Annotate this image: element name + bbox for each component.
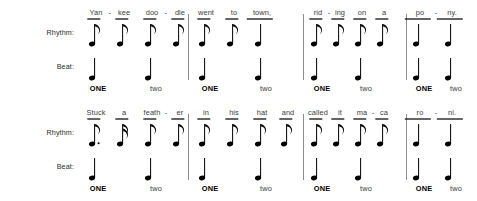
barline-1 [303,114,304,180]
lyric-syllable: Yan [90,8,103,17]
beat-note-quarter [139,152,165,186]
lyric-syllable: ma [357,108,367,117]
rhythm-note-quarter [439,118,465,152]
beat-label-one: ONE [202,184,219,193]
lyric-hyphen: - [372,108,374,117]
lyric-syllable: ca [380,108,388,117]
beat-label-one: ONE [314,184,331,193]
lyric-hyphen: - [109,8,111,17]
rhythm-note-eighth [111,18,137,52]
lyric-hyphen: - [328,8,330,17]
lyric-syllable: feath [144,108,161,117]
beat-note-quarter [439,52,465,86]
beat-label-one: ONE [416,184,433,193]
beat-note-quarter [83,52,109,86]
rhythm-note-quarter [407,118,433,152]
rhythm-note-eighth [371,118,397,152]
music-notation-sheet: Rhythm:Beat:Yan-keedoo-dleONEtwowenttoto… [0,0,477,201]
lyric-syllable: ny. [447,8,457,17]
lyric-syllable: called [308,108,328,117]
beat-label-one: ONE [416,84,433,93]
beat-label-two: two [450,184,462,193]
rhythm-note-eighth [139,118,165,152]
rhythm-note-eighth [167,118,193,152]
lyric-syllable: a [122,108,126,117]
system-1: Rhythm:Beat:Stuckafeath-erONEtwoinhishat… [0,100,477,200]
rhythm-note-quarter [249,18,275,52]
lyric-syllable: Stuck [87,108,106,117]
lyric-syllable: his [229,108,239,117]
beat-note-quarter [439,152,465,186]
rhythm-note-eighth [193,118,219,152]
lyric-hyphen: - [435,108,437,117]
lyric-syllable: ni. [448,108,456,117]
rhythm-note-quarter [439,18,465,52]
beat-row-label: Beat: [57,162,74,171]
lyric-syllable: to [231,8,237,17]
lyric-syllable: hat [257,108,268,117]
beat-label-one: ONE [90,184,107,193]
beat-note-quarter [139,52,165,86]
beat-note-quarter [193,152,219,186]
rhythm-note-eighth [221,18,247,52]
lyric-syllable: it [338,108,342,117]
beat-note-quarter [249,152,275,186]
beat-label-two: two [260,84,272,93]
rhythm-note-eighth [249,118,275,152]
beat-note-quarter [249,52,275,86]
lyric-hyphen: - [165,8,167,17]
beat-note-quarter [83,152,109,186]
rhythm-row-label: Rhythm: [47,128,74,137]
system-0: Rhythm:Beat:Yan-keedoo-dleONEtwowenttoto… [0,0,477,100]
rhythm-note-eighth [371,18,397,52]
lyric-hyphen: - [435,8,437,17]
beat-note-quarter [305,52,331,86]
rhythm-note-quarter [407,18,433,52]
lyric-syllable: town, [253,8,271,17]
beat-note-quarter [305,152,331,186]
lyric-syllable: rid [314,8,323,17]
rhythm-note-eighth [167,18,193,52]
beat-note-quarter [349,52,375,86]
lyric-syllable: and [282,108,295,117]
beat-label-one: ONE [202,84,219,93]
rhythm-note-eighth [275,118,301,152]
rhythm-note-dotted-eighth [83,118,109,152]
barline-1 [303,14,304,80]
beat-row-label: Beat: [57,62,74,71]
rhythm-note-eighth [221,118,247,152]
beat-note-quarter [407,52,433,86]
lyric-hyphen: - [165,108,167,117]
beat-label-two: two [150,184,162,193]
beat-label-one: ONE [90,84,107,93]
lyric-syllable: dle [175,8,185,17]
beat-label-two: two [360,84,372,93]
beat-label-two: two [360,184,372,193]
beat-note-quarter [407,152,433,186]
beat-note-quarter [193,52,219,86]
lyric-syllable: ro [417,108,424,117]
rhythm-note-eighth [83,18,109,52]
lyric-syllable: doo [146,8,159,17]
lyric-syllable: on [358,8,366,17]
rhythm-note-eighth [193,18,219,52]
beat-note-quarter [349,152,375,186]
beat-label-two: two [450,84,462,93]
rhythm-row-label: Rhythm: [47,28,74,37]
lyric-syllable: er [177,108,184,117]
lyric-syllable: went [198,8,214,17]
lyric-syllable: in [203,108,209,117]
lyric-syllable: ing [335,8,345,17]
beat-label-two: two [260,184,272,193]
rhythm-note-eighth [139,18,165,52]
beat-label-one: ONE [314,84,331,93]
lyric-syllable: kee [118,8,130,17]
beat-label-two: two [150,84,162,93]
lyric-syllable: a [382,8,386,17]
lyric-syllable: po [416,8,424,17]
rhythm-note-sixteenth [111,118,137,152]
